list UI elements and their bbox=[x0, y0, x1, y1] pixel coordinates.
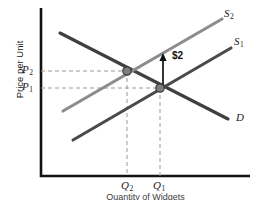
curve-label-d-text: D bbox=[236, 111, 244, 123]
y-tick-label-p2: P2 bbox=[22, 64, 32, 75]
x-tick-label-q2: Q2 bbox=[121, 180, 133, 191]
equilibrium-point-before-tax bbox=[156, 84, 164, 92]
y-tick-label-p1: P1 bbox=[22, 81, 32, 92]
y-tick-p1-sub: 1 bbox=[29, 85, 33, 94]
curve-label-s2-sub: 2 bbox=[230, 12, 234, 21]
demand-curve bbox=[60, 33, 228, 119]
x-axis-title: Quantity of Widgets bbox=[41, 192, 250, 200]
x-tick-q2-text: Q bbox=[121, 179, 129, 191]
y-tick-p1-text: P bbox=[22, 80, 29, 92]
supply-demand-figure: Price per Unit S2 S1 D P2 P1 Q2 Q1 $2 Qu… bbox=[0, 0, 258, 200]
curve-label-s1-sub: 1 bbox=[240, 40, 244, 49]
supply-curve-s2 bbox=[63, 19, 222, 111]
curve-label-s2-text: S bbox=[224, 7, 230, 19]
y-tick-p2-sub: 2 bbox=[29, 68, 33, 77]
plot-area bbox=[0, 0, 258, 200]
curve-label-d: D bbox=[236, 112, 244, 123]
x-tick-q1-text: Q bbox=[153, 179, 161, 191]
equilibrium-point-after-tax bbox=[123, 67, 131, 75]
tax-annotation-label: $2 bbox=[172, 50, 183, 61]
axis-lines bbox=[41, 8, 250, 176]
x-tick-label-q1: Q1 bbox=[153, 180, 165, 191]
curve-label-s1: S1 bbox=[234, 36, 243, 47]
curve-label-s2: S2 bbox=[224, 8, 233, 19]
y-tick-p2-text: P bbox=[22, 63, 29, 75]
curve-label-s1-text: S bbox=[234, 35, 240, 47]
supply-curve-s1 bbox=[73, 48, 231, 140]
